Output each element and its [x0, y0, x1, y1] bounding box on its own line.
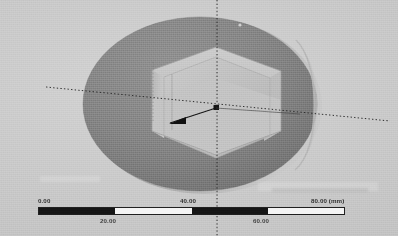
- artifact-layer: [0, 0, 398, 236]
- cad-3d-viewport[interactable]: 0.00 40.00 80.00 (mm) 20.00 60.00: [0, 0, 398, 236]
